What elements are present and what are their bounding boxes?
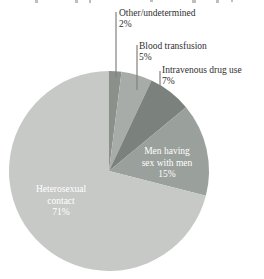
slice-pct-intravenous-drug-use: 7% [162, 76, 242, 87]
slice-label-line: sex with men [117, 158, 217, 170]
slice-label-men-having-sex-with-men: Men having sex with men 15% [117, 146, 217, 181]
slice-label-other-undetermined: Other/undetermined [119, 8, 196, 19]
slice-pct-men-having-sex-with-men: 15% [117, 169, 217, 181]
slice-label-line: Heterosexual [11, 184, 111, 196]
pie-chart-canvas [0, 0, 264, 279]
slice-label-heterosexual-contact: Heterosexual contact 71% [11, 184, 111, 219]
slice-label-line: Men having [117, 146, 217, 158]
callout-intravenous-drug-use: Intravenous drug use 7% [162, 65, 242, 86]
slice-pct-heterosexual-contact: 71% [11, 207, 111, 219]
callout-other-undetermined: Other/undetermined 2% [119, 8, 196, 29]
slice-label-blood-transfusion: Blood transfusion [139, 41, 207, 52]
slice-label-intravenous-drug-use: Intravenous drug use [162, 65, 242, 76]
callout-blood-transfusion: Blood transfusion 5% [139, 41, 207, 62]
slice-pct-other-undetermined: 2% [119, 19, 196, 30]
pie-chart-figure: Other/undetermined 2% Blood transfusion … [0, 0, 264, 279]
slice-label-line: contact [11, 196, 111, 208]
slice-pct-blood-transfusion: 5% [139, 52, 207, 63]
